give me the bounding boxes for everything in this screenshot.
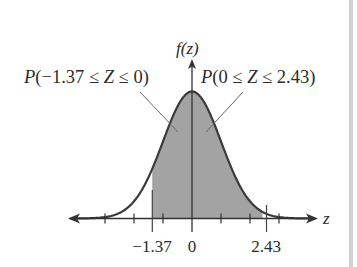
x-axis-label: z	[322, 209, 330, 228]
right-border-bar	[349, 0, 353, 267]
chart-svg: f(z) P(−1.37 ≤ Z ≤ 0) P(0 ≤ Z ≤ 2.43) z …	[0, 0, 357, 267]
right-region-label: P(0 ≤ Z ≤ 2.43)	[200, 67, 315, 88]
leader-line-left	[140, 92, 178, 132]
y-axis-label: f(z)	[176, 39, 199, 58]
tick-label-neg: −1.37	[132, 237, 172, 256]
normal-distribution-figure: f(z) P(−1.37 ≤ Z ≤ 0) P(0 ≤ Z ≤ 2.43) z …	[0, 0, 357, 267]
tick-label-pos: 2.43	[251, 237, 281, 256]
tick-label-zero: 0	[188, 237, 197, 256]
left-region-label: P(−1.37 ≤ Z ≤ 0)	[23, 67, 149, 88]
leader-line-right	[206, 92, 243, 132]
